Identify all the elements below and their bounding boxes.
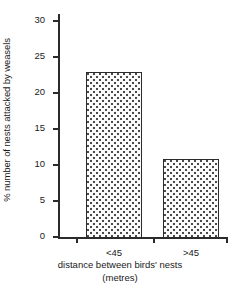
y-axis-tick: 25 bbox=[53, 56, 59, 58]
y-axis-tick: 0 bbox=[53, 236, 59, 238]
y-axis-tick: 30 bbox=[53, 20, 59, 22]
y-axis-label: % number of nests attacked by weasels bbox=[0, 0, 14, 240]
x-axis-caption: distance between birds' nests (metres) bbox=[22, 258, 218, 284]
y-axis-tick: 10 bbox=[53, 164, 59, 166]
y-axis-tick-label: 0 bbox=[40, 229, 45, 242]
plot-area: 30 25 20 15 10 5 0 <45 >45 bbox=[58, 14, 228, 242]
bar-chart-figure: % number of nests attacked by weasels 30… bbox=[0, 0, 234, 289]
x-axis-tick bbox=[76, 237, 78, 243]
bar[interactable] bbox=[163, 159, 219, 238]
y-axis-tick: 20 bbox=[53, 92, 59, 94]
x-axis-caption-line2: (metres) bbox=[22, 271, 218, 284]
x-axis-tick bbox=[153, 237, 155, 243]
bar[interactable] bbox=[86, 72, 142, 238]
y-axis-tick-label: 10 bbox=[34, 157, 45, 170]
y-axis-line bbox=[58, 14, 60, 238]
y-axis-tick-label: 5 bbox=[40, 193, 45, 206]
y-axis-tick: 5 bbox=[53, 200, 59, 202]
y-axis-tick-label: 30 bbox=[34, 13, 45, 26]
y-axis-tick-label: 15 bbox=[34, 121, 45, 134]
x-axis-tick bbox=[226, 237, 228, 243]
y-axis-tick-label: 20 bbox=[34, 85, 45, 98]
x-axis-caption-line1: distance between birds' nests bbox=[58, 259, 182, 270]
y-axis-tick-label: 25 bbox=[34, 49, 45, 62]
y-axis-tick: 15 bbox=[53, 128, 59, 130]
